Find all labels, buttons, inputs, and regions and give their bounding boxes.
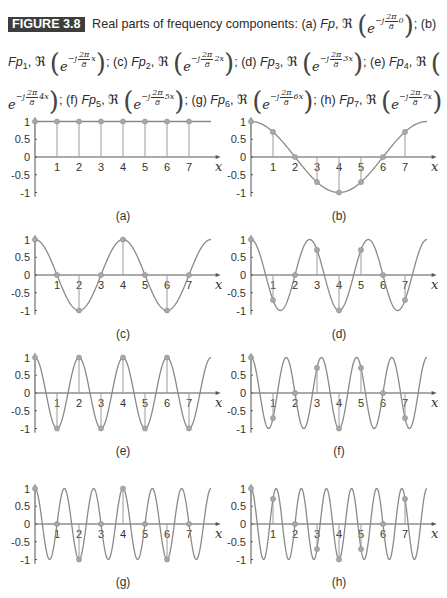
svg-text:-1: -1 [236,554,246,566]
svg-text:-0.5: -0.5 [227,536,246,548]
svg-text:0: 0 [240,518,246,530]
svg-text:1: 1 [270,528,276,540]
svg-text:1: 1 [240,483,246,495]
svg-text:x: x [431,526,439,541]
plot-h: 10.50-0.5-11234567x [0,0,447,598]
svg-text:7: 7 [402,528,408,540]
svg-text:0.5: 0.5 [231,500,246,512]
panel-label: (h) [319,575,359,589]
